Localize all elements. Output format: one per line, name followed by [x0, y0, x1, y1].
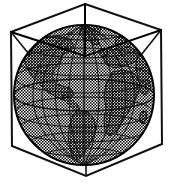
globe-in-cube-graphic	[0, 0, 172, 192]
illustration-canvas: Globe inside wireframe cube monochrome h…	[0, 0, 172, 192]
